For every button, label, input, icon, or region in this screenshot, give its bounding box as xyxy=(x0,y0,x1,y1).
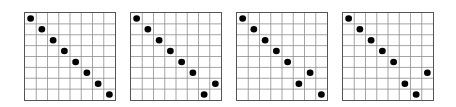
dot-marker xyxy=(145,26,152,33)
dot-marker xyxy=(390,59,397,66)
dot-marker xyxy=(318,91,325,98)
dot-marker xyxy=(95,80,102,87)
dot-marker xyxy=(273,48,280,55)
dot-marker xyxy=(190,70,197,77)
dot-marker xyxy=(201,91,208,98)
grid-lines xyxy=(343,13,433,100)
grid-board-3 xyxy=(236,12,328,101)
dot-marker xyxy=(239,15,246,22)
dot-marker xyxy=(262,37,269,44)
grid-lines xyxy=(131,13,221,100)
dot-marker xyxy=(368,37,375,44)
dot-marker xyxy=(133,15,140,22)
dot-marker xyxy=(27,15,34,22)
grid-board-1 xyxy=(24,12,116,101)
grid-lines xyxy=(237,13,327,100)
dot-marker xyxy=(357,26,364,33)
dot-marker xyxy=(156,37,163,44)
dot-marker xyxy=(296,80,303,87)
dot-marker xyxy=(424,70,431,77)
dot-marker xyxy=(167,48,174,55)
dot-marker xyxy=(379,48,386,55)
grid-board-2 xyxy=(130,12,222,101)
grid-board-4 xyxy=(342,12,434,101)
dot-marker xyxy=(39,26,46,33)
grid-lines xyxy=(25,13,115,100)
dot-marker xyxy=(178,59,185,66)
dot-marker xyxy=(61,48,68,55)
dot-marker xyxy=(50,37,57,44)
dot-marker xyxy=(106,91,113,98)
dot-marker xyxy=(345,15,352,22)
dot-marker xyxy=(251,26,258,33)
dot-marker xyxy=(84,70,91,77)
dot-marker xyxy=(212,80,219,87)
dot-marker xyxy=(284,59,291,66)
dot-marker xyxy=(307,70,314,77)
dot-marker xyxy=(402,80,409,87)
dot-marker xyxy=(413,91,420,98)
dot-marker xyxy=(72,59,79,66)
